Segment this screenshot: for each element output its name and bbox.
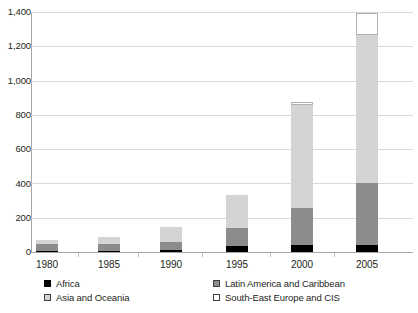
- legend-label: Latin America and Caribbean: [225, 278, 345, 289]
- y-tick-label: 1,400: [2, 7, 31, 17]
- x-tick-label: 1990: [160, 259, 182, 270]
- y-tick-label: 800: [2, 110, 31, 120]
- bar-2005: [356, 13, 378, 252]
- y-tick-label: 400: [2, 179, 31, 189]
- bar-segment-1985-africa: [98, 251, 120, 252]
- x-tick-label: 1995: [226, 259, 248, 270]
- bar-segment-1980-latin: [36, 244, 58, 251]
- plot-area: [31, 12, 413, 252]
- legend-swatch-latin-icon: [213, 280, 220, 287]
- legend-item-latin-america-and-caribbean: Latin America and Caribbean: [213, 278, 345, 289]
- y-tick-label: 0: [2, 247, 31, 257]
- legend-label: Africa: [56, 278, 80, 289]
- bar-segment-2005-latin: [356, 183, 378, 245]
- x-tick: [202, 253, 203, 257]
- x-tick: [138, 253, 139, 257]
- x-tick-label: 2005: [356, 259, 378, 270]
- bar-segment-2000-asia: [291, 105, 313, 208]
- legend-item-asia-and-oceania: Asia and Oceania: [44, 292, 129, 303]
- y-tick-label: 1,200: [2, 41, 31, 51]
- legend-label: South-East Europe and CIS: [225, 292, 340, 303]
- bar-segment-1985-latin: [98, 244, 120, 251]
- bar-segment-1985-asia: [98, 237, 120, 244]
- bar-segment-1995-latin: [226, 228, 248, 246]
- bar-segment-1990-asia: [160, 227, 182, 242]
- legend-item-africa: Africa: [44, 278, 80, 289]
- bar-segment-1995-africa: [226, 246, 248, 252]
- bar-segment-2000-latin: [291, 208, 313, 245]
- y-tick-label: 600: [2, 144, 31, 154]
- bar-segment-1980-asia: [36, 240, 58, 244]
- bar-1985: [98, 237, 120, 252]
- bar-segment-2005-africa: [356, 245, 378, 252]
- bar-segment-1990-africa: [160, 250, 182, 252]
- bar-segment-1995-asia: [226, 195, 248, 228]
- bar-1980: [36, 240, 58, 252]
- gridline-0: [31, 252, 413, 253]
- bar-segment-2005-asia: [356, 35, 378, 183]
- x-tick-label: 1985: [98, 259, 120, 270]
- x-tick-label: 1980: [36, 259, 58, 270]
- legend-swatch-see-icon: [213, 294, 220, 301]
- stacked-bar-chart: 1,400 1,200 1,000 800 600 400 200 0 1980…: [0, 0, 418, 313]
- bar-segment-2005-see: [356, 13, 378, 35]
- y-tick-label: 200: [2, 213, 31, 223]
- y-tick-label: 1,000: [2, 76, 31, 86]
- bar-segment-2000-see: [291, 102, 313, 105]
- x-tick: [270, 253, 271, 257]
- x-tick-label: 2000: [291, 259, 313, 270]
- legend-swatch-africa-icon: [44, 280, 51, 287]
- legend-swatch-asia-icon: [44, 294, 51, 301]
- bar-1990: [160, 227, 182, 252]
- bar-1995: [226, 195, 248, 252]
- x-tick: [78, 253, 79, 257]
- chart-legend: Africa Asia and Oceania Latin America an…: [0, 278, 418, 313]
- legend-label: Asia and Oceania: [56, 292, 129, 303]
- legend-item-south-east-europe-and-cis: South-East Europe and CIS: [213, 292, 340, 303]
- y-axis-labels: 1,400 1,200 1,000 800 600 400 200 0: [0, 0, 31, 313]
- bar-2000: [291, 102, 313, 252]
- bar-segment-1990-latin: [160, 242, 182, 251]
- bar-segment-2000-africa: [291, 245, 313, 252]
- bar-segment-1980-africa: [36, 251, 58, 252]
- x-tick: [334, 253, 335, 257]
